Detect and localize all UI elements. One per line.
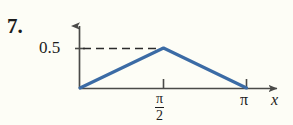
fraction-numerator-pi: π — [155, 92, 164, 106]
x-axis-tick-label-pi-over-2: π 2 — [155, 92, 164, 124]
fraction-denominator-2: 2 — [155, 109, 164, 123]
x-axis-tick-label-pi: π — [240, 92, 248, 108]
y-axis-tick-label-0.5: 0.5 — [39, 39, 60, 56]
plot-svg — [0, 0, 293, 125]
figure-container: 7. 0.5 π 2 π x — [0, 0, 293, 125]
x-axis-label: x — [271, 92, 278, 108]
